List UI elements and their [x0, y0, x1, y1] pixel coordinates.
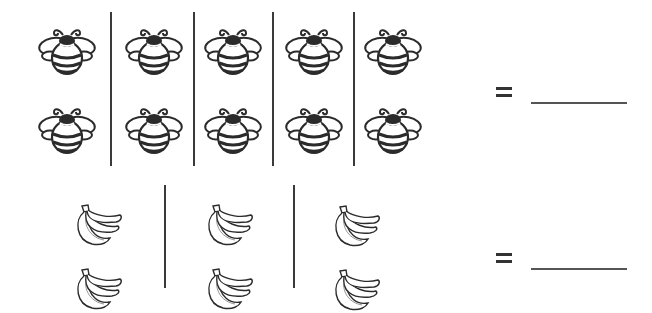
bee-icon	[124, 104, 184, 156]
equals-sign	[496, 87, 512, 98]
answer-blank[interactable]	[531, 268, 627, 270]
group-divider	[164, 185, 166, 288]
group-divider	[293, 185, 295, 288]
bee-icon	[284, 25, 344, 77]
bee-icon	[203, 104, 263, 156]
group-divider	[353, 12, 355, 166]
group-divider	[193, 12, 195, 166]
banana-bunch-icon	[203, 266, 257, 312]
banana-bunch-icon	[203, 202, 257, 248]
group-divider	[110, 12, 112, 166]
equals-sign	[496, 253, 512, 264]
bee-icon	[363, 104, 423, 156]
answer-blank[interactable]	[531, 102, 627, 104]
banana-bunch-icon	[72, 266, 126, 312]
banana-bunch-icon	[330, 267, 384, 313]
bee-icon	[363, 25, 423, 77]
bee-icon	[124, 25, 184, 77]
banana-bunch-icon	[330, 203, 384, 249]
group-divider	[272, 12, 274, 166]
bee-icon	[284, 104, 344, 156]
bee-icon	[203, 25, 263, 77]
bee-icon	[37, 25, 97, 77]
banana-bunch-icon	[72, 202, 126, 248]
bee-icon	[37, 104, 97, 156]
